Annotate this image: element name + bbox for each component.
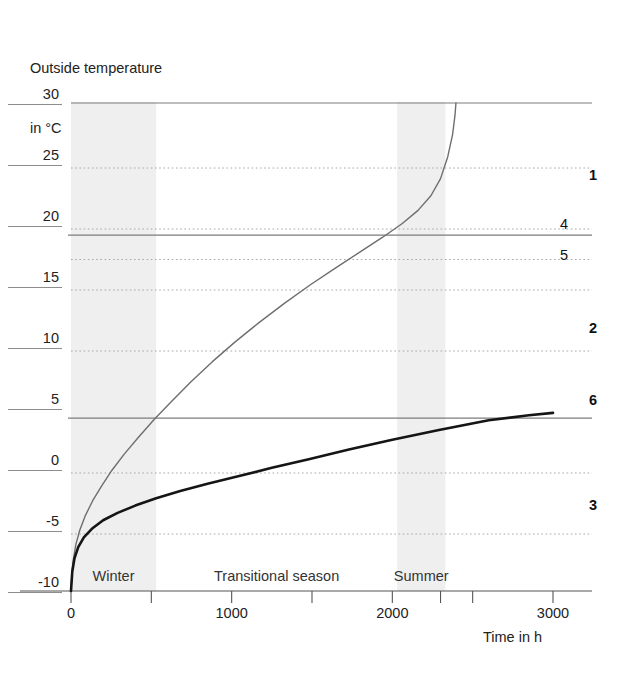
y-tick-value: 10 — [43, 330, 62, 346]
x-axis-caption: Time in h — [483, 629, 542, 645]
y-tick-label--5: -5 — [8, 513, 62, 532]
y-tick-value: 20 — [43, 208, 62, 224]
y-tick-label--10: -10 — [8, 574, 62, 593]
y-tick-value: 25 — [43, 147, 62, 163]
annotation-3: 3 — [589, 497, 597, 513]
y-tick-label-25: 25 — [8, 147, 62, 166]
y-tick-label-5: 5 — [8, 391, 62, 410]
season-band-summer — [397, 102, 445, 591]
x-tick-label-3000: 3000 — [537, 605, 569, 621]
season-label-summer: Summer — [394, 568, 449, 584]
shaded-bands-layer — [71, 102, 445, 591]
y-tick-value: 0 — [51, 452, 62, 468]
y-tick-label-10: 10 — [8, 330, 62, 349]
y-tick-value: 15 — [43, 269, 62, 285]
y-tick-label-30: 30 — [8, 86, 62, 105]
y-tick-value: -10 — [38, 574, 62, 590]
chart-container: Outside temperature in °C -10-5051015202… — [0, 0, 635, 682]
x-tick-label-2000: 2000 — [376, 605, 408, 621]
annotation-2: 2 — [589, 320, 597, 336]
y-tick-value: -5 — [46, 513, 62, 529]
season-label-transitional: Transitional season — [214, 568, 339, 584]
y-tick-label-20: 20 — [8, 208, 62, 227]
y-tick-value: 30 — [43, 86, 62, 102]
annotation-6: 6 — [589, 392, 597, 408]
x-tick-label-0: 0 — [67, 605, 75, 621]
y-tick-value: 5 — [51, 391, 62, 407]
x-tick-label-1000: 1000 — [216, 605, 248, 621]
annotation-4: 4 — [560, 216, 568, 232]
season-band-winter — [71, 102, 156, 591]
y-tick-label-15: 15 — [8, 269, 62, 288]
y-tick-label-0: 0 — [8, 452, 62, 471]
annotation-5: 5 — [560, 247, 568, 263]
annotation-1: 1 — [589, 167, 597, 183]
season-label-winter: Winter — [93, 568, 135, 584]
